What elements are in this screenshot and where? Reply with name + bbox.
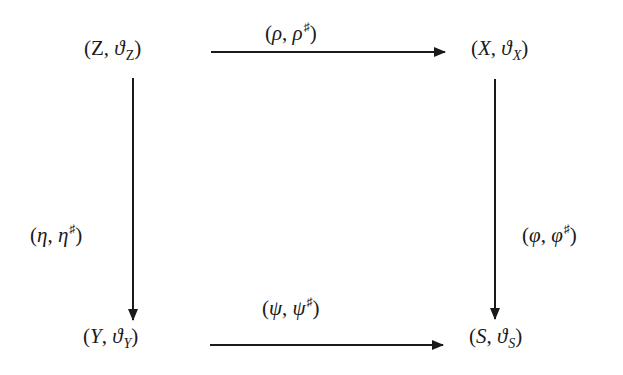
sharp-icon: ♯ [69,222,75,236]
node-y-sub: Y [124,336,132,351]
label-eta: (η, η♯) [30,225,82,246]
node-x-base: X [478,36,491,60]
node-z: (Z, ϑZ) [84,38,141,59]
node-x-sheaf: ϑ [501,36,511,60]
label-psi: (ψ, ψ♯) [262,298,320,319]
label-phi: (φ, φ♯) [522,225,577,246]
node-y-sheaf: ϑ [112,324,122,348]
node-y: (Y, ϑY) [83,326,138,347]
node-x: (X, ϑX) [471,38,528,59]
node-z-sub: Z [126,48,135,63]
label-rho: (ρ, ρ♯) [265,23,317,44]
node-x-sub: X [513,48,522,63]
node-s: (S, ϑS) [469,326,522,347]
node-z-base: Z [91,36,104,60]
node-z-sheaf: ϑ [114,36,124,60]
node-s-sub: S [508,336,515,351]
node-s-base: S [476,324,487,348]
sharp-icon: ♯ [307,295,313,309]
commutative-diagram: (Z, ϑZ) (X, ϑX) (Y, ϑY) (S, ϑS) (ρ, ρ♯) … [0,0,623,375]
node-y-base: Y [90,324,102,348]
sharp-icon: ♯ [304,20,310,34]
sharp-icon: ♯ [564,222,570,236]
node-s-sheaf: ϑ [497,324,507,348]
